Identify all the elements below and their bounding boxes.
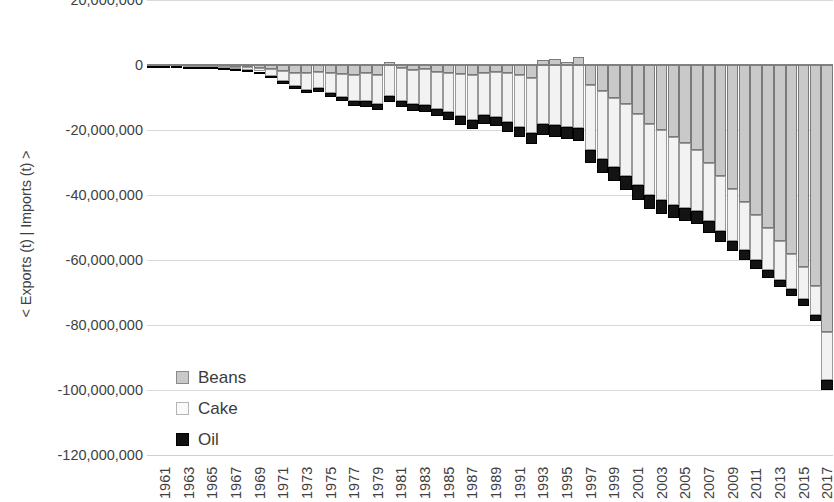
bar-segment-cake	[396, 68, 407, 101]
bar-segment-cake	[810, 286, 821, 315]
bar-column	[632, 0, 643, 455]
bar-segment-beans	[715, 65, 726, 176]
bar-segment-beans	[644, 65, 655, 124]
x-axis-tick-label: 2013	[773, 455, 788, 499]
bar-segment-cake	[573, 65, 584, 128]
bar-segment-oil	[254, 72, 265, 74]
bar-segment-cake	[514, 75, 525, 127]
bar-segment-cake	[313, 72, 324, 89]
bar-segment-beans	[467, 65, 478, 75]
bar-column	[608, 0, 619, 455]
bar-column	[313, 0, 324, 455]
bar-column	[396, 0, 407, 455]
bar-segment-oil	[703, 221, 714, 233]
bar-segment-oil	[632, 185, 643, 199]
bar-segment-oil	[159, 66, 170, 68]
bar-segment-oil	[218, 68, 229, 70]
bar-segment-cake	[561, 65, 572, 127]
bar-segment-cake	[597, 91, 608, 159]
bar-column	[526, 0, 537, 455]
bar-segment-beans	[774, 65, 785, 241]
bar-segment-oil	[526, 133, 537, 144]
bar-segment-cake	[372, 75, 383, 104]
bar-segment-beans	[798, 65, 809, 267]
x-axis-tick-label: 1983	[418, 455, 433, 499]
bar-segment-cake	[774, 241, 785, 280]
x-axis-tick-label: 1967	[229, 455, 244, 499]
x-axis-tick-label: 2009	[726, 455, 741, 499]
bar-segment-oil	[455, 116, 466, 124]
bar-column	[549, 0, 560, 455]
bar-segment-oil	[348, 101, 359, 106]
bar-segment-oil	[325, 93, 336, 97]
x-axis-tick-label: 1987	[465, 455, 480, 499]
bar-segment-beans	[336, 65, 347, 74]
y-axis-tick-label: -120,000,000	[3, 448, 143, 463]
bar-segment-oil	[431, 109, 442, 116]
bar-column	[159, 0, 170, 455]
bar-column	[443, 0, 454, 455]
y-axis-tick-label: -100,000,000	[3, 383, 143, 398]
bar-segment-cake	[265, 69, 276, 76]
bar-column	[147, 0, 158, 455]
bar-segment-beans	[360, 65, 371, 73]
bar-segment-cake	[407, 70, 418, 104]
bar-segment-cake	[289, 73, 300, 87]
bar-column	[644, 0, 655, 455]
bar-segment-oil	[277, 81, 288, 83]
bar-column	[455, 0, 466, 455]
bar-segment-cake	[679, 143, 690, 208]
bar-column	[325, 0, 336, 455]
bar-column	[384, 0, 395, 455]
bar-segment-oil	[679, 208, 690, 221]
bar-segment-cake	[502, 73, 513, 122]
bar-segment-oil	[739, 250, 750, 260]
bar-segment-oil	[585, 150, 596, 163]
legend-swatch-cake-icon	[176, 402, 189, 415]
bar-segment-beans	[455, 65, 466, 74]
bar-segment-oil	[715, 231, 726, 242]
bar-column	[786, 0, 797, 455]
x-axis-tick-label: 2015	[797, 455, 812, 499]
bar-segment-cake	[419, 69, 430, 105]
x-axis-tick-label: 1973	[300, 455, 315, 499]
bar-segment-cake	[703, 163, 714, 222]
bar-segment-beans	[656, 65, 667, 130]
bar-column	[490, 0, 501, 455]
bar-segment-beans	[739, 65, 750, 202]
bar-segment-beans	[632, 65, 643, 114]
bar-column	[372, 0, 383, 455]
bar-segment-oil	[443, 112, 454, 120]
bar-segment-oil	[798, 299, 809, 306]
x-axis-tick-label: 1995	[560, 455, 575, 499]
bar-column	[561, 0, 572, 455]
bar-segment-oil	[561, 127, 572, 139]
x-axis-tick-label: 2007	[702, 455, 717, 499]
bar-column	[502, 0, 513, 455]
x-axis-tick-label: 1979	[371, 455, 386, 499]
x-axis-tick-labels: 1961196319651967196919711973197519771979…	[147, 455, 833, 502]
bar-column	[336, 0, 347, 455]
x-axis-tick-label: 1963	[182, 455, 197, 499]
bar-segment-oil	[810, 315, 821, 321]
bar-segment-cake	[549, 65, 560, 125]
x-axis-tick-label: 1971	[276, 455, 291, 499]
bar-segment-beans	[372, 65, 383, 75]
bar-segment-beans	[502, 65, 513, 73]
bar-segment-oil	[384, 96, 395, 102]
bar-segment-oil	[786, 289, 797, 296]
legend-item-cake: Cake	[176, 393, 246, 424]
y-axis-tick-label: 0	[3, 58, 143, 73]
bar-segment-beans	[691, 65, 702, 150]
bar-segment-oil	[821, 380, 832, 390]
bar-column	[810, 0, 821, 455]
bar-segment-oil	[573, 128, 584, 141]
bar-column	[537, 0, 548, 455]
bar-segment-oil	[691, 211, 702, 223]
bar-column	[360, 0, 371, 455]
x-axis-tick-label: 2001	[631, 455, 646, 499]
x-axis-tick-label: 1993	[536, 455, 551, 499]
bar-segment-oil	[597, 159, 608, 173]
bar-segment-oil	[242, 70, 253, 72]
bar-column	[585, 0, 596, 455]
